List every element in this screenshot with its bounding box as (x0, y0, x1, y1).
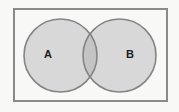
venn-diagram-figure: A B (0, 0, 179, 112)
set-a-label: A (44, 48, 52, 60)
venn-diagram-canvas: A B (0, 0, 179, 112)
set-b-label: B (126, 48, 134, 60)
